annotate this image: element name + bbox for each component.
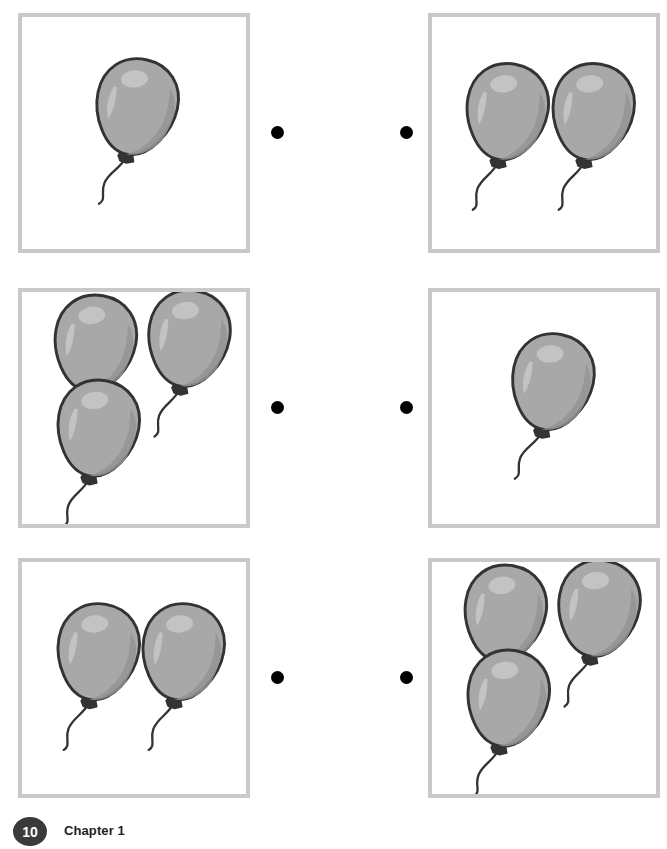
balloon xyxy=(125,597,231,759)
balloon xyxy=(541,562,647,716)
row-3 xyxy=(0,558,667,803)
box-row3-left[interactable] xyxy=(18,558,250,798)
balloon-string xyxy=(515,430,541,483)
balloon xyxy=(131,292,237,446)
balloon-group xyxy=(22,17,246,249)
balloon-string xyxy=(149,700,174,752)
balloon-group xyxy=(22,292,246,524)
box-row1-left[interactable] xyxy=(18,13,250,253)
balloon xyxy=(491,326,602,490)
balloon-string xyxy=(154,387,179,439)
balloon xyxy=(40,374,146,524)
exercise-grid xyxy=(0,0,667,815)
dot-row2-right[interactable] xyxy=(400,401,413,414)
balloon-group xyxy=(432,562,656,794)
balloon-string xyxy=(559,160,584,212)
box-row3-right[interactable] xyxy=(428,558,660,798)
box-row2-left[interactable] xyxy=(18,288,250,528)
row-2 xyxy=(0,288,667,533)
dot-row2-left[interactable] xyxy=(271,401,284,414)
dot-row1-right[interactable] xyxy=(400,126,413,139)
chapter-label: Chapter 1 xyxy=(64,823,125,838)
balloon-string xyxy=(64,700,89,752)
balloon-string xyxy=(99,155,125,208)
page-number-badge: 10 xyxy=(13,817,47,846)
page-footer: 10 Chapter 1 xyxy=(0,815,667,849)
balloon xyxy=(75,51,186,215)
balloon-string xyxy=(473,160,498,212)
balloon xyxy=(450,644,556,794)
balloon xyxy=(449,57,555,219)
box-row2-right[interactable] xyxy=(428,288,660,528)
balloon xyxy=(40,597,146,759)
dot-row1-left[interactable] xyxy=(271,126,284,139)
box-row1-right[interactable] xyxy=(428,13,660,253)
balloon xyxy=(535,57,641,219)
dot-row3-right[interactable] xyxy=(400,671,413,684)
balloon-group xyxy=(432,17,656,249)
dot-row3-left[interactable] xyxy=(271,671,284,684)
balloon-group xyxy=(432,292,656,524)
row-1 xyxy=(0,13,667,258)
balloon-string xyxy=(564,657,589,709)
balloon-group xyxy=(22,562,246,794)
